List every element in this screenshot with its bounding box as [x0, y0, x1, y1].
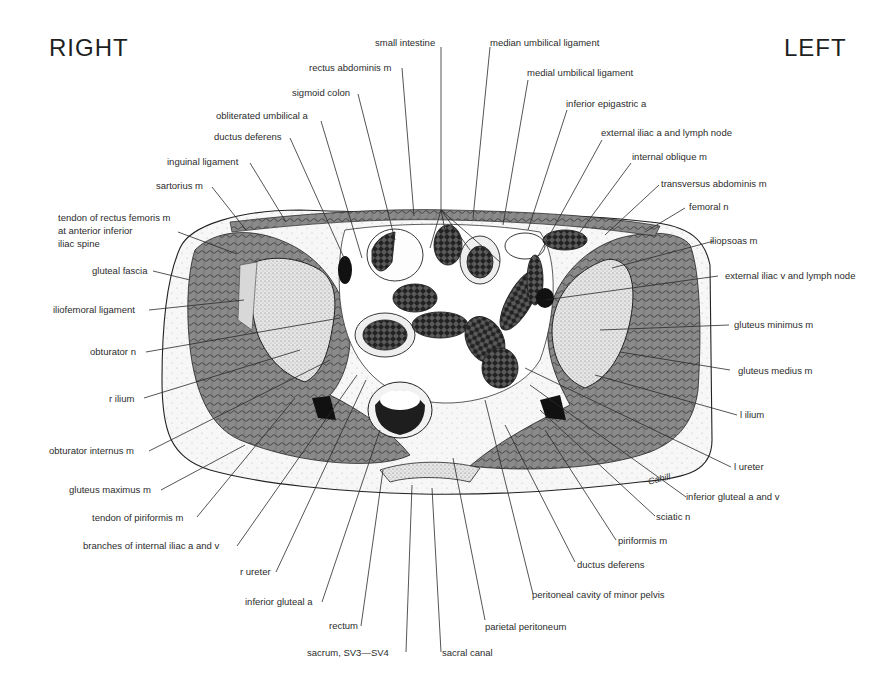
label-iliofemoral-ligament: iliofemoral ligament	[53, 304, 135, 316]
label-obturator-n: obturator n	[90, 346, 136, 358]
label-r-ilium: r ilium	[109, 393, 134, 405]
label-branches-internal-iliac: branches of internal iliac a and v	[83, 540, 219, 552]
label-median-umbilical-ligament: median umbilical ligament	[490, 37, 599, 49]
label-piriformis-m: piriformis m	[618, 535, 667, 547]
label-inguinal-ligament: inguinal ligament	[167, 156, 238, 168]
label-gluteus-medius-m: gluteus medius m	[738, 365, 812, 377]
label-internal-oblique-m: internal oblique m	[632, 151, 707, 163]
label-ductus-deferens-bottom: ductus deferens	[577, 559, 645, 571]
label-external-iliac-v-lymph-node: external iliac v and lymph node	[725, 270, 855, 282]
label-parietal-peritoneum: parietal peritoneum	[485, 621, 566, 633]
label-obliterated-umbilical-a: obliterated umbilical a	[216, 110, 308, 122]
label-iliopsoas-m: iliopsoas m	[710, 235, 758, 247]
label-tendon-rectus-femoris-3: iliac spine	[58, 238, 100, 250]
label-femoral-n: femoral n	[689, 201, 729, 213]
label-rectum: rectum	[329, 620, 358, 632]
label-gluteus-maximus-m: gluteus maximus m	[69, 484, 151, 496]
label-sacrum: sacrum, SV3—SV4	[307, 647, 389, 659]
label-gluteus-minimus-m: gluteus minimus m	[734, 319, 813, 331]
label-tendon-of-piriformis-m: tendon of piriformis m	[92, 512, 183, 524]
label-tendon-rectus-femoris-2: at anterior inferior	[58, 225, 132, 237]
external-iliac-vessel-right	[338, 256, 352, 284]
label-medial-umbilical-ligament: medial umbilical ligament	[527, 67, 633, 79]
label-sartorius-m: sartorius m	[156, 180, 203, 192]
label-transversus-abdominis-m: transversus abdominis m	[661, 178, 767, 190]
label-l-ilium: l ilium	[740, 409, 764, 421]
label-rectus-abdominis-m: rectus abdominis m	[309, 62, 391, 74]
label-inferior-epigastric-a: inferior epigastric a	[566, 98, 646, 110]
label-r-ureter: r ureter	[240, 566, 271, 578]
label-gluteal-fascia: gluteal fascia	[92, 265, 147, 277]
label-sigmoid-colon: sigmoid colon	[292, 87, 350, 99]
label-tendon-rectus-femoris-1: tendon of rectus femoris m	[58, 212, 170, 224]
label-sacral-canal: sacral canal	[442, 647, 493, 659]
label-l-ureter: l ureter	[734, 461, 764, 473]
label-inferior-gluteal-a: inferior gluteal a	[245, 596, 313, 608]
label-sciatic-n: sciatic n	[656, 511, 690, 523]
label-external-iliac-a-lymph-node: external iliac a and lymph node	[601, 127, 732, 139]
label-ductus-deferens-top: ductus deferens	[214, 131, 282, 143]
external-iliac-vessel-left	[536, 288, 554, 308]
label-inferior-gluteal-a-and-v: inferior gluteal a and v	[686, 491, 779, 503]
label-obturator-internus-m: obturator internus m	[49, 445, 134, 457]
label-small-intestine: small intestine	[375, 37, 435, 49]
label-peritoneal-cavity-minor-pelvis: peritoneal cavity of minor pelvis	[532, 589, 665, 601]
